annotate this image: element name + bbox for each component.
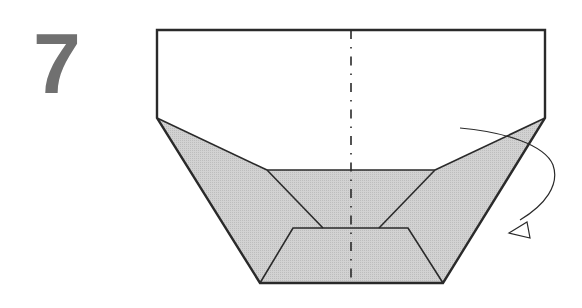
origami-diagram: [0, 0, 582, 308]
